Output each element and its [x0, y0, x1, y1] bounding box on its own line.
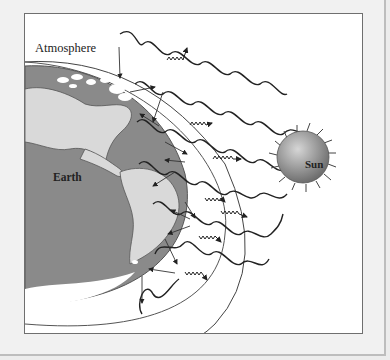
earth-label: Earth	[53, 171, 82, 183]
earth-globe	[25, 66, 187, 306]
atmosphere-label: Atmosphere	[35, 41, 96, 56]
diagram-frame: Atmosphere Earth Sun	[24, 13, 363, 334]
sun-label: Sun	[305, 158, 323, 170]
sun	[269, 123, 336, 192]
